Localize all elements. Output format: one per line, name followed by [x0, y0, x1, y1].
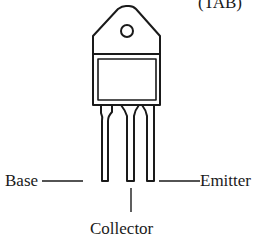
mounting-hole: [121, 25, 133, 37]
base-label: Base: [5, 172, 38, 189]
lead-emitter: [142, 105, 154, 181]
mounting-tab: [93, 6, 160, 54]
lead-collector: [121, 105, 139, 181]
package-body-outer: [93, 54, 160, 105]
tab-label: (TAB): [198, 0, 242, 11]
transistor-drawing: [0, 0, 275, 244]
emitter-label: Emitter: [200, 172, 251, 189]
collector-label: Collector: [90, 220, 153, 237]
lead-base: [101, 105, 112, 181]
package-body-inner: [98, 59, 156, 100]
